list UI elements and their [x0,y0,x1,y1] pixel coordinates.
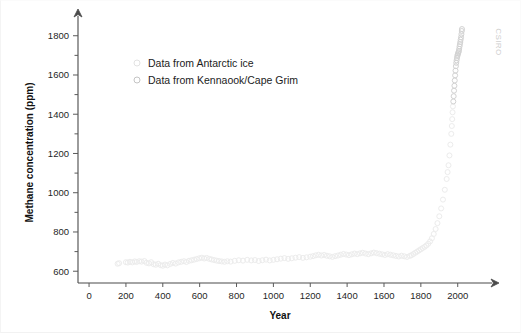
data-point [451,94,456,99]
y-tick-label: 1000 [48,187,69,198]
data-point [446,163,451,168]
y-tick-label: 1400 [48,109,69,120]
data-point [437,214,442,219]
x-tick-label: 800 [229,290,245,301]
legend-item-label: Data from Antarctic ice [148,57,254,69]
x-axis-arrow-icon [491,279,499,287]
data-point [439,206,444,211]
data-point [447,153,452,158]
data-point [435,221,440,226]
legend-marker-icon [134,60,140,66]
x-tick-label: 400 [155,290,171,301]
data-point [452,83,457,88]
y-tick-label: 800 [53,226,69,237]
data-point [431,231,436,236]
csiro-watermark: CSIRO [494,28,503,55]
data-point [448,142,453,147]
y-tick-label: 600 [53,266,69,277]
x-tick-label: 1600 [373,290,394,301]
data-point [445,170,450,175]
y-axis-title: Methane concentration (ppm) [24,82,35,222]
legend-item-label: Data from Kennaook/Cape Grim [148,74,298,86]
data-point [449,131,454,136]
legend-marker-icon [134,77,140,83]
chart-figure: 6008001000120014001600180002004006008001… [0,0,521,333]
series-antarctic-ice [115,104,455,268]
data-point [440,197,445,202]
data-point [442,187,447,192]
data-point [450,110,455,115]
data-point [451,99,456,104]
y-tick-label: 1800 [48,30,69,41]
csiro-watermark-label: CSIRO [494,28,503,55]
chart-legend: Data from Antarctic iceData from Kennaoo… [134,57,298,86]
data-point [433,227,438,232]
x-tick-label: 600 [192,290,208,301]
x-tick-label: 200 [118,290,134,301]
axes-layer [73,9,499,287]
y-tick-label: 1600 [48,69,69,80]
data-point [452,78,457,83]
x-tick-label: 1200 [300,290,321,301]
series-cape-grim [451,27,465,104]
y-axis-arrow-icon [74,9,82,17]
methane-scatter-chart: 6008001000120014001600180002004006008001… [0,0,521,333]
data-point [444,176,449,181]
data-point [450,117,455,122]
x-tick-label: 1400 [337,290,358,301]
data-point [449,124,454,129]
y-tick-label: 1200 [48,148,69,159]
data-point [452,88,457,93]
x-axis-title: Year [269,310,290,321]
x-tick-label: 0 [86,290,91,301]
x-tick-label: 2000 [447,290,468,301]
data-point [450,104,455,109]
x-tick-label: 1000 [263,290,284,301]
x-tick-label: 1800 [410,290,431,301]
